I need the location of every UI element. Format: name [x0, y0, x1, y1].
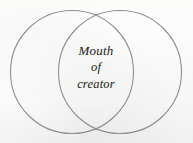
- intersection-label: Mouth of creator: [70, 42, 122, 93]
- intersection-label-line-3: creator: [70, 76, 122, 93]
- venn-diagram-figure: Mouth of creator: [0, 0, 193, 143]
- intersection-label-line-1: Mouth: [70, 42, 122, 59]
- intersection-label-line-2: of: [70, 59, 122, 76]
